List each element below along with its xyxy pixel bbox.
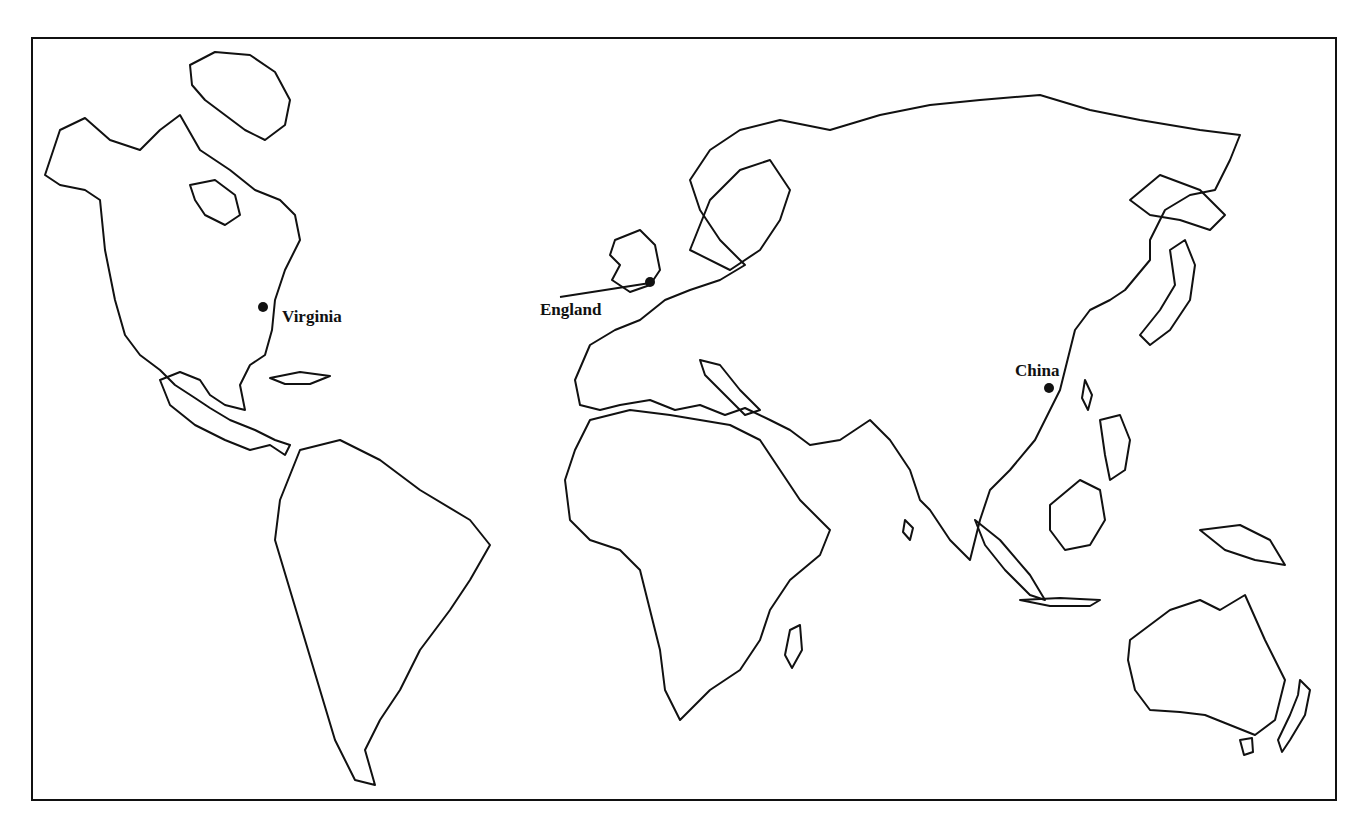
- eurasia: [575, 95, 1240, 560]
- greenland: [190, 52, 290, 140]
- new-guinea: [1200, 525, 1285, 565]
- scandinavia: [690, 160, 790, 270]
- africa: [565, 410, 830, 720]
- java: [1020, 598, 1100, 606]
- china-marker[interactable]: [1044, 383, 1054, 393]
- sri-lanka: [903, 520, 913, 540]
- italy: [700, 360, 760, 415]
- tasmania: [1240, 738, 1253, 755]
- hudson-bay: [190, 180, 240, 225]
- south-america: [275, 440, 490, 785]
- japan: [1140, 240, 1195, 345]
- virginia-marker[interactable]: [258, 302, 268, 312]
- caribbean-island: [270, 372, 330, 384]
- north-america: [45, 115, 300, 455]
- borneo: [1050, 480, 1105, 550]
- virginia-label: Virginia: [282, 307, 342, 327]
- philippines: [1100, 415, 1130, 480]
- australia: [1128, 595, 1285, 735]
- china-label: China: [1015, 361, 1059, 381]
- taiwan: [1082, 380, 1092, 410]
- sumatra: [975, 520, 1045, 600]
- madagascar: [785, 625, 802, 668]
- england-marker[interactable]: [645, 277, 655, 287]
- england-label: England: [540, 300, 601, 320]
- world-map-outline: [0, 0, 1366, 837]
